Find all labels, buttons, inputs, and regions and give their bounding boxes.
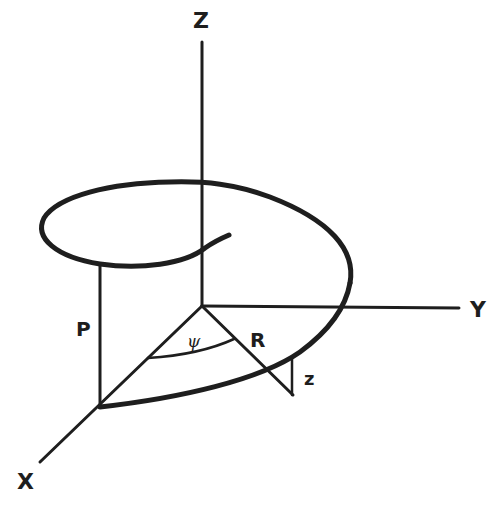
x-axis-label: X	[17, 469, 34, 494]
z-height-label: z	[304, 368, 314, 389]
y-axis	[202, 306, 459, 308]
radius-line	[202, 306, 293, 395]
y-axis-label: Y	[469, 297, 487, 322]
helix-coordinate-diagram: Z Y X P R ψ z	[0, 0, 490, 510]
x-axis	[40, 306, 202, 462]
radius-label: R	[250, 328, 265, 352]
pitch-label: P	[76, 317, 91, 341]
helix-upper-loop	[42, 182, 351, 283]
axes	[40, 42, 459, 462]
angle-psi-label: ψ	[187, 331, 201, 351]
z-axis-label: Z	[193, 8, 209, 33]
